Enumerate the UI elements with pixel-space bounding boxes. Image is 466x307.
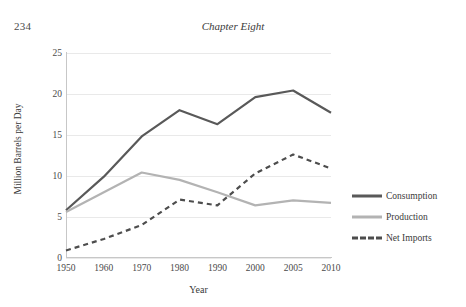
x-tick-label: 1970 xyxy=(132,263,151,273)
y-tick-label: 15 xyxy=(28,130,62,140)
series-lines xyxy=(66,52,331,257)
legend-item-production[interactable]: Production xyxy=(352,206,464,227)
legend-item-net-imports[interactable]: Net Imports xyxy=(352,227,464,248)
series-line-production xyxy=(66,173,331,212)
legend-item-consumption[interactable]: Consumption xyxy=(352,185,464,206)
chart-legend: ConsumptionProductionNet Imports xyxy=(352,185,464,248)
x-tick-label: 1950 xyxy=(57,263,76,273)
x-axis-tick-labels: 19501960197019801990200020052010 xyxy=(0,263,466,279)
y-tick-label: 20 xyxy=(28,89,62,99)
x-tick-label: 1990 xyxy=(208,263,227,273)
legend-swatch-icon xyxy=(352,212,382,222)
book-page: 234 Chapter Eight 0510152025 19501960197… xyxy=(0,0,466,307)
y-axis-tick-labels: 0510152025 xyxy=(18,52,62,258)
legend-label: Production xyxy=(386,212,428,222)
x-tick-label: 1980 xyxy=(170,263,189,273)
x-tick-label: 2005 xyxy=(284,263,303,273)
legend-swatch-icon xyxy=(352,233,382,243)
y-axis-title: Million Barrels per Day xyxy=(13,74,23,224)
running-head: Chapter Eight xyxy=(0,20,466,32)
x-tick-label: 1960 xyxy=(94,263,113,273)
y-tick-label: 5 xyxy=(28,212,62,222)
gridline xyxy=(66,258,331,259)
y-tick-label: 25 xyxy=(28,48,62,58)
legend-label: Net Imports xyxy=(386,233,432,243)
y-tick-label: 10 xyxy=(28,171,62,181)
x-axis-title: Year xyxy=(66,284,331,295)
x-axis-line xyxy=(66,257,332,258)
legend-swatch-icon xyxy=(352,191,382,201)
y-tick-label: 0 xyxy=(28,253,62,263)
plot-area xyxy=(66,52,331,257)
x-tick-label: 2000 xyxy=(246,263,265,273)
x-tick-label: 2010 xyxy=(322,263,341,273)
line-chart-figure: 0510152025 19501960197019801990200020052… xyxy=(0,40,466,307)
series-line-net-imports xyxy=(66,155,331,251)
legend-label: Consumption xyxy=(386,191,437,201)
